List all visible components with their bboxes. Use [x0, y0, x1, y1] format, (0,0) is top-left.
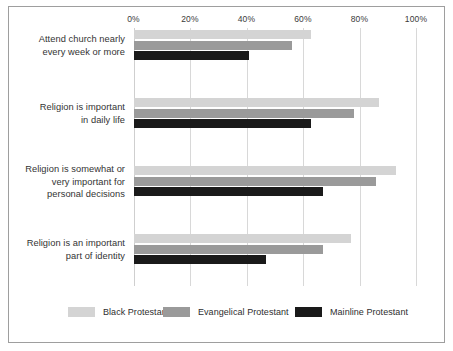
legend-swatch-icon [68, 307, 95, 317]
category-label-2: Religion is importantin daily life [0, 101, 125, 126]
y-axis-category-labels: Attend church nearlyevery week or moreRe… [0, 28, 129, 286]
legend-label: Black Protestant [103, 307, 169, 317]
x-axis-tick-0: 0% [127, 14, 140, 24]
category-label-4: Religion is an importantpart of identity [0, 237, 125, 262]
x-axis-tick-20: 20% [181, 14, 199, 24]
bar-row [134, 30, 417, 39]
bar-row [134, 245, 417, 254]
bar-group-1 [134, 30, 417, 62]
x-axis-tick-40: 40% [238, 14, 256, 24]
bar-black-protestant-1[interactable] [134, 30, 312, 39]
bar-row [134, 98, 417, 107]
bar-row [134, 187, 417, 196]
bar-row [134, 234, 417, 243]
category-label-line: Religion is somewhat or [0, 163, 125, 175]
bar-evangelical-protestant-3[interactable] [134, 177, 377, 186]
x-axis-tick-100: 100% [405, 14, 428, 24]
bar-black-protestant-4[interactable] [134, 234, 352, 243]
bar-row [134, 255, 417, 264]
x-axis-tick-80: 80% [351, 14, 369, 24]
legend-swatch-icon [163, 307, 190, 317]
bar-evangelical-protestant-4[interactable] [134, 245, 323, 254]
bar-black-protestant-2[interactable] [134, 98, 380, 107]
chart-legend: Black ProtestantEvangelical ProtestantMa… [0, 305, 453, 327]
bar-row [134, 177, 417, 186]
category-label-line: every week or more [0, 46, 125, 58]
legend-item-mainline-protestant[interactable]: Mainline Protestant [295, 305, 408, 319]
category-label-line: very important for [0, 176, 125, 188]
bar-row [134, 119, 417, 128]
category-label-3: Religion is somewhat orvery important fo… [0, 163, 125, 200]
bar-mainline-protestant-4[interactable] [134, 255, 267, 264]
category-label-line: Religion is important [0, 101, 125, 113]
legend-swatch-icon [295, 307, 322, 317]
gridline-100 [416, 28, 417, 286]
bar-evangelical-protestant-1[interactable] [134, 41, 292, 50]
category-label-line: part of identity [0, 250, 125, 262]
x-axis-tick-60: 60% [294, 14, 312, 24]
bar-group-2 [134, 98, 417, 130]
bar-black-protestant-3[interactable] [134, 166, 397, 175]
legend-item-evangelical-protestant[interactable]: Evangelical Protestant [163, 305, 289, 319]
category-label-line: Religion is an important [0, 237, 125, 249]
category-label-line: Attend church nearly [0, 33, 125, 45]
bar-mainline-protestant-3[interactable] [134, 187, 323, 196]
bar-mainline-protestant-1[interactable] [134, 51, 250, 60]
legend-label: Evangelical Protestant [198, 307, 289, 317]
bar-mainline-protestant-2[interactable] [134, 119, 312, 128]
chart-container: 0%20%40%60%80%100% Attend church nearlye… [0, 0, 453, 351]
plot-area [134, 28, 417, 286]
category-label-1: Attend church nearlyevery week or more [0, 33, 125, 58]
legend-label: Mainline Protestant [330, 307, 408, 317]
bar-group-3 [134, 166, 417, 198]
bar-row [134, 109, 417, 118]
bar-row [134, 51, 417, 60]
bar-row [134, 166, 417, 175]
bar-row [134, 41, 417, 50]
bar-group-4 [134, 234, 417, 266]
bar-evangelical-protestant-2[interactable] [134, 109, 354, 118]
legend-item-black-protestant[interactable]: Black Protestant [68, 305, 169, 319]
x-axis-tick-labels: 0%20%40%60%80%100% [0, 0, 453, 28]
category-label-line: personal decisions [0, 188, 125, 200]
category-label-line: in daily life [0, 114, 125, 126]
